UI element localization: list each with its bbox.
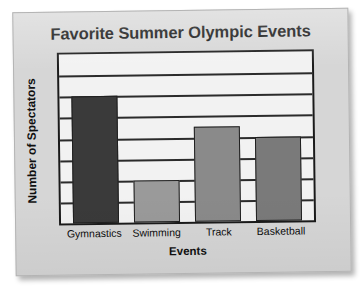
chart-title: Favorite Summer Olympic Events xyxy=(13,21,347,44)
x-axis-title: Events xyxy=(59,243,316,258)
bar-swimming xyxy=(133,180,180,223)
bar-track xyxy=(194,126,241,222)
x-axis-label-swimming: Swimming xyxy=(125,226,187,239)
x-axis-label-track: Track xyxy=(188,225,250,238)
bar-slot xyxy=(247,51,310,221)
plot-area xyxy=(57,49,316,225)
scanned-page: Favorite Summer Olympic Events Number of… xyxy=(0,0,360,287)
worksheet-card: Favorite Summer Olympic Events Number of… xyxy=(12,8,351,276)
bar-basketball xyxy=(255,136,302,221)
bar-series xyxy=(59,51,314,223)
x-axis-label-gymnastics: Gymnastics xyxy=(63,227,125,240)
bar-slot xyxy=(124,53,187,223)
y-axis-title-container: Number of Spectators xyxy=(20,55,44,227)
bar-slot xyxy=(185,52,248,222)
x-axis-tick-labels: GymnasticsSwimmingTrackBasketball xyxy=(59,224,316,239)
y-axis-title: Number of Spectators xyxy=(24,78,40,204)
bar-slot xyxy=(63,54,126,224)
x-axis-label-basketball: Basketball xyxy=(250,224,312,237)
bar-gymnastics xyxy=(71,96,119,223)
